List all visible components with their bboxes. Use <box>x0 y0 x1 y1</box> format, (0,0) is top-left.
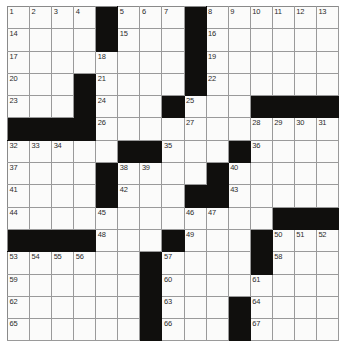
letter-cell[interactable]: 41 <box>8 185 30 207</box>
letter-cell[interactable] <box>74 319 96 341</box>
letter-cell[interactable] <box>96 140 118 162</box>
letter-cell[interactable] <box>316 319 338 341</box>
letter-cell[interactable]: 45 <box>96 207 118 229</box>
letter-cell[interactable] <box>52 185 74 207</box>
letter-cell[interactable] <box>206 118 228 140</box>
letter-cell[interactable] <box>228 51 250 73</box>
letter-cell[interactable] <box>118 207 140 229</box>
letter-cell[interactable]: 51 <box>294 229 316 251</box>
letter-cell[interactable]: 38 <box>118 163 140 185</box>
letter-cell[interactable]: 12 <box>294 7 316 29</box>
letter-cell[interactable] <box>162 29 184 51</box>
letter-cell[interactable] <box>30 185 52 207</box>
letter-cell[interactable] <box>206 252 228 274</box>
letter-cell[interactable]: 23 <box>8 96 30 118</box>
letter-cell[interactable]: 49 <box>184 229 206 251</box>
letter-cell[interactable]: 56 <box>74 252 96 274</box>
letter-cell[interactable] <box>206 274 228 296</box>
letter-cell[interactable] <box>52 319 74 341</box>
letter-cell[interactable] <box>118 319 140 341</box>
letter-cell[interactable] <box>228 96 250 118</box>
letter-cell[interactable] <box>294 296 316 318</box>
letter-cell[interactable]: 40 <box>228 163 250 185</box>
letter-cell[interactable] <box>52 96 74 118</box>
letter-cell[interactable] <box>96 274 118 296</box>
letter-cell[interactable] <box>118 51 140 73</box>
letter-cell[interactable] <box>294 252 316 274</box>
letter-cell[interactable]: 44 <box>8 207 30 229</box>
letter-cell[interactable] <box>30 73 52 95</box>
letter-cell[interactable] <box>118 73 140 95</box>
letter-cell[interactable] <box>96 296 118 318</box>
letter-cell[interactable]: 64 <box>250 296 272 318</box>
letter-cell[interactable]: 18 <box>96 51 118 73</box>
letter-cell[interactable]: 20 <box>8 73 30 95</box>
letter-cell[interactable] <box>162 163 184 185</box>
letter-cell[interactable]: 58 <box>272 252 294 274</box>
letter-cell[interactable]: 53 <box>8 252 30 274</box>
letter-cell[interactable] <box>316 51 338 73</box>
letter-cell[interactable]: 14 <box>8 29 30 51</box>
letter-cell[interactable]: 32 <box>8 140 30 162</box>
letter-cell[interactable] <box>316 29 338 51</box>
letter-cell[interactable]: 27 <box>184 118 206 140</box>
letter-cell[interactable] <box>162 73 184 95</box>
letter-cell[interactable] <box>206 319 228 341</box>
letter-cell[interactable] <box>162 207 184 229</box>
letter-cell[interactable] <box>74 140 96 162</box>
letter-cell[interactable] <box>206 229 228 251</box>
letter-cell[interactable]: 17 <box>8 51 30 73</box>
letter-cell[interactable] <box>272 51 294 73</box>
letter-cell[interactable]: 39 <box>140 163 162 185</box>
letter-cell[interactable] <box>140 29 162 51</box>
letter-cell[interactable] <box>206 96 228 118</box>
letter-cell[interactable] <box>250 185 272 207</box>
letter-cell[interactable] <box>228 29 250 51</box>
letter-cell[interactable] <box>74 51 96 73</box>
letter-cell[interactable] <box>294 29 316 51</box>
crossword-grid[interactable]: 1234567891011121314151617181920212223242… <box>7 6 339 341</box>
letter-cell[interactable] <box>96 252 118 274</box>
letter-cell[interactable] <box>316 252 338 274</box>
letter-cell[interactable] <box>52 274 74 296</box>
letter-cell[interactable] <box>52 207 74 229</box>
letter-cell[interactable]: 55 <box>52 252 74 274</box>
letter-cell[interactable] <box>272 185 294 207</box>
letter-cell[interactable] <box>74 185 96 207</box>
letter-cell[interactable]: 21 <box>96 73 118 95</box>
letter-cell[interactable]: 35 <box>162 140 184 162</box>
letter-cell[interactable] <box>184 319 206 341</box>
letter-cell[interactable] <box>52 29 74 51</box>
letter-cell[interactable]: 15 <box>118 29 140 51</box>
letter-cell[interactable] <box>272 29 294 51</box>
letter-cell[interactable] <box>74 274 96 296</box>
letter-cell[interactable] <box>140 118 162 140</box>
letter-cell[interactable]: 3 <box>52 7 74 29</box>
letter-cell[interactable] <box>228 118 250 140</box>
letter-cell[interactable] <box>228 229 250 251</box>
letter-cell[interactable] <box>206 296 228 318</box>
letter-cell[interactable]: 25 <box>184 96 206 118</box>
letter-cell[interactable] <box>118 252 140 274</box>
letter-cell[interactable]: 4 <box>74 7 96 29</box>
letter-cell[interactable]: 28 <box>250 118 272 140</box>
letter-cell[interactable] <box>74 207 96 229</box>
letter-cell[interactable] <box>272 274 294 296</box>
letter-cell[interactable] <box>294 274 316 296</box>
letter-cell[interactable] <box>96 319 118 341</box>
letter-cell[interactable] <box>118 296 140 318</box>
letter-cell[interactable]: 47 <box>206 207 228 229</box>
letter-cell[interactable]: 31 <box>316 118 338 140</box>
letter-cell[interactable] <box>52 51 74 73</box>
letter-cell[interactable]: 16 <box>206 29 228 51</box>
letter-cell[interactable] <box>140 96 162 118</box>
letter-cell[interactable] <box>294 185 316 207</box>
letter-cell[interactable]: 1 <box>8 7 30 29</box>
letter-cell[interactable] <box>52 296 74 318</box>
letter-cell[interactable]: 59 <box>8 274 30 296</box>
letter-cell[interactable]: 22 <box>206 73 228 95</box>
letter-cell[interactable]: 30 <box>294 118 316 140</box>
letter-cell[interactable] <box>294 73 316 95</box>
letter-cell[interactable] <box>272 140 294 162</box>
letter-cell[interactable] <box>74 29 96 51</box>
